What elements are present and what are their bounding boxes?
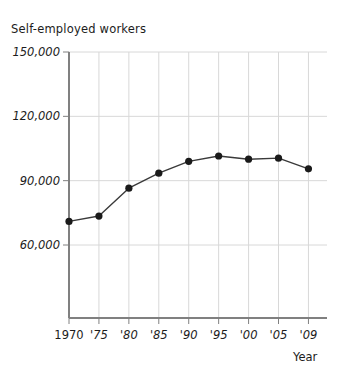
chart-container: Self-employed workers 60,00090,000120,00… [0,0,343,373]
x-axis-tick-label: '80 [120,328,138,342]
data-point-marker[interactable] [95,212,102,219]
y-axis-tick-label: 60,000 [20,238,60,252]
x-axis-tick-label: 1970 [54,328,83,342]
x-axis-tick-label: '90 [180,328,198,342]
data-point-marker[interactable] [65,218,72,225]
x-axis-tick-label: '95 [210,328,228,342]
x-axis-title: Year [293,350,317,364]
x-axis-tick-label: '75 [90,328,108,342]
data-point-marker[interactable] [305,165,312,172]
data-point-marker[interactable] [155,170,162,177]
x-axis-tick-label: '09 [300,328,318,342]
data-point-marker[interactable] [125,185,132,192]
y-axis-tick-label: 120,000 [12,109,60,123]
data-point-marker[interactable] [245,156,252,163]
x-axis-tick-label: '00 [240,328,258,342]
y-axis-tick-label: 90,000 [20,174,60,188]
x-axis-tick-label: '85 [150,328,168,342]
y-axis-tick-label: 150,000 [12,45,60,59]
x-axis-tick-label: '05 [270,328,288,342]
data-point-marker[interactable] [275,155,282,162]
data-point-marker[interactable] [185,158,192,165]
data-point-marker[interactable] [215,152,222,159]
